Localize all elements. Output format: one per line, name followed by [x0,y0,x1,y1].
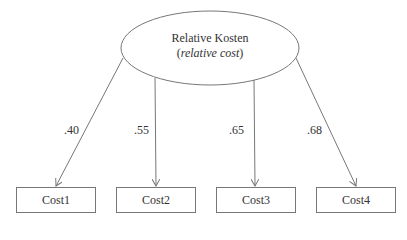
indicator-label: Cost4 [342,193,370,208]
loading-1: .40 [64,123,79,138]
path-arrow-2 [155,78,156,186]
indicator-label: Cost2 [142,193,170,208]
loading-2: .55 [134,123,149,138]
indicator-label: Cost1 [42,193,70,208]
indicator-box-3: Cost3 [216,187,296,213]
indicator-box-2: Cost2 [116,187,196,213]
path-arrow-4 [296,58,356,186]
latent-name: Relative Kosten [121,31,299,46]
loading-3: .65 [229,123,244,138]
latent-translation: (relative cost) [121,46,299,61]
path-arrow-1 [56,58,123,186]
latent-label: Relative Kosten (relative cost) [121,31,299,61]
indicator-box-4: Cost4 [316,187,396,213]
loading-4: .68 [307,123,322,138]
indicator-box-1: Cost1 [16,187,96,213]
path-arrow-3 [254,80,255,186]
indicator-label: Cost3 [242,193,270,208]
